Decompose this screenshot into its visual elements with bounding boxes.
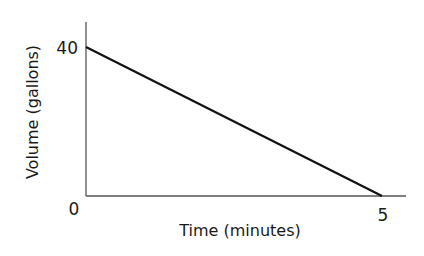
line-chart: 40 0 5 Time (minutes) Volume (gallons) [0,0,424,256]
data-line-volume [86,47,382,196]
x-axis-title: Time (minutes) [178,221,301,240]
origin-label: 0 [69,199,80,219]
y-axis-title: Volume (gallons) [23,45,42,179]
x-tick-label-5: 5 [378,205,389,225]
y-tick-label-40: 40 [56,38,78,58]
